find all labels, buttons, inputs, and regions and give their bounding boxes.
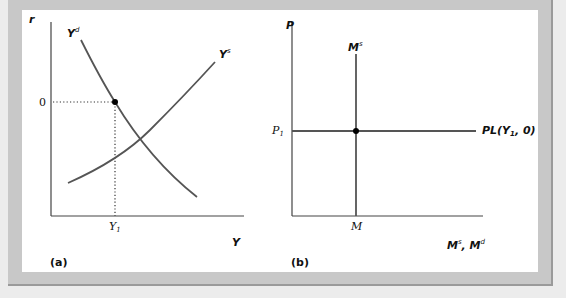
- demand-curve-yd: [81, 40, 197, 197]
- panel-a-equilibrium-point: [112, 99, 118, 105]
- chart-canvas: [0, 0, 566, 298]
- panel-a-x-axis-label: Y: [232, 237, 240, 248]
- panel-a-y-tick: 0: [39, 97, 46, 108]
- panel-b-equilibrium-point: [353, 128, 359, 134]
- price-level-line-label: PL(Y1, 0): [482, 125, 536, 138]
- panel-a-axes: [51, 22, 244, 216]
- panel-a-dotted-guides: [53, 102, 115, 216]
- panel-a-y-axis-label: r: [29, 14, 34, 25]
- demand-curve-label: Yd: [67, 27, 79, 39]
- panel-b-axes: [292, 22, 483, 216]
- panel-b-tag: (b): [291, 257, 309, 268]
- panel-a-x-tick: Y1: [109, 221, 121, 234]
- panel-b-x-tick: M: [351, 221, 362, 232]
- panel-a-tag: (a): [50, 257, 67, 268]
- money-supply-label: Ms: [348, 41, 363, 53]
- panel-b-y-axis-label: P: [286, 20, 294, 31]
- supply-curve-label: Ys: [219, 48, 231, 60]
- panel-b-x-axis-label: Ms, Md: [447, 239, 485, 251]
- supply-curve-ys: [68, 62, 215, 183]
- panel-b-y-tick: P1: [272, 125, 284, 138]
